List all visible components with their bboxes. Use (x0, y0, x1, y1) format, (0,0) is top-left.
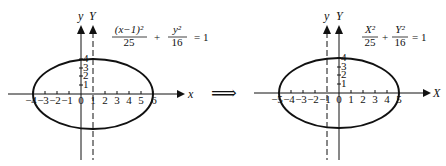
right-y-axis-label: y (323, 9, 330, 23)
svg-text:= 1: = 1 (412, 31, 426, 43)
svg-text:+: + (154, 31, 160, 43)
svg-text:5: 5 (396, 93, 402, 105)
svg-text:2: 2 (102, 94, 108, 106)
left-y-axis-label: y (77, 9, 84, 23)
svg-text:4: 4 (126, 94, 132, 106)
svg-text:3: 3 (114, 94, 120, 106)
implies-arrow-icon: ⟹ (211, 83, 237, 103)
svg-text:−2: −2 (49, 94, 61, 106)
right-x-tick-labels: −5 −4 −3 −2 −1 0 1 2 3 4 5 (271, 93, 402, 105)
svg-text:25: 25 (365, 36, 377, 48)
left-diagram: x y Y −4 −3 −2 −1 0 1 2 3 4 5 (8, 9, 208, 160)
svg-text:5: 5 (138, 94, 144, 106)
svg-text:16: 16 (395, 36, 407, 48)
left-x-tick-labels: −4 −3 −2 −1 0 1 2 3 4 5 6 (25, 94, 157, 106)
left-Y-axis-arrow-icon (89, 25, 97, 34)
svg-text:+: + (382, 31, 388, 43)
svg-text:4: 4 (384, 93, 390, 105)
left-x-axis-arrow-icon (177, 90, 185, 98)
svg-text:−5: −5 (271, 93, 283, 105)
svg-text:6: 6 (151, 94, 157, 106)
right-Y-axis-arrow-icon (335, 25, 343, 34)
svg-text:−4: −4 (25, 94, 37, 106)
right-y-tick-labels: 4 3 2 1 (341, 51, 347, 89)
svg-text:25: 25 (124, 36, 136, 48)
right-y-axis-arrow-icon (323, 25, 331, 34)
right-diagram: X y Y −5 −4 −3 −2 −1 0 1 2 3 4 5 (254, 9, 441, 160)
right-x-axis-label: X (432, 86, 441, 100)
svg-text:0: 0 (78, 94, 84, 106)
svg-text:−1: −1 (61, 94, 73, 106)
left-x-axis-label: x (187, 87, 194, 101)
svg-text:0: 0 (336, 93, 342, 105)
svg-text:3: 3 (372, 93, 378, 105)
svg-text:−3: −3 (37, 94, 49, 106)
svg-text:Y²: Y² (395, 23, 405, 35)
right-x-axis-arrow-icon (423, 89, 431, 97)
svg-text:−2: −2 (307, 93, 319, 105)
svg-text:−3: −3 (295, 93, 307, 105)
left-equation: (x−1)² 25 + y² 16 = 1 (112, 23, 208, 48)
svg-text:1: 1 (348, 93, 354, 105)
left-y-tick-labels: 4 3 2 1 (83, 52, 89, 90)
svg-text:X²: X² (364, 23, 376, 35)
svg-text:(x−1)²: (x−1)² (115, 23, 144, 36)
svg-text:−1: −1 (319, 93, 331, 105)
svg-text:1: 1 (341, 77, 347, 89)
left-Y-axis-label: Y (89, 9, 97, 23)
svg-text:16: 16 (172, 36, 184, 48)
right-equation: X² 25 + Y² 16 = 1 (362, 23, 426, 48)
svg-text:1: 1 (83, 78, 89, 90)
svg-text:−4: −4 (283, 93, 295, 105)
right-Y-axis-label: Y (336, 9, 344, 23)
left-y-axis-arrow-icon (77, 25, 85, 34)
svg-text:2: 2 (360, 93, 366, 105)
svg-text:y²: y² (172, 23, 182, 35)
svg-text:= 1: = 1 (194, 31, 208, 43)
svg-text:1: 1 (90, 94, 96, 106)
